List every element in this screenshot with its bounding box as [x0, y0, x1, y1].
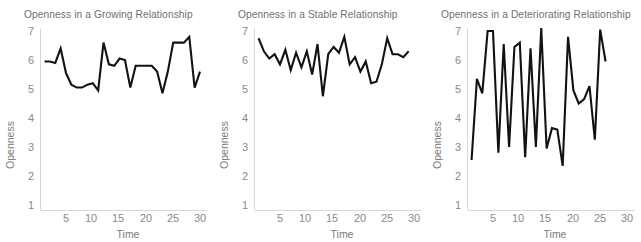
x-tick-label: 15 [112, 212, 124, 224]
x-tick-label: 10 [298, 212, 310, 224]
y-tick-label: 2 [28, 170, 34, 182]
y-axis-title-stable: Openness [219, 121, 230, 169]
x-axis-title-deteriorating: Time [544, 229, 567, 240]
x-tick-label: 30 [194, 212, 206, 224]
chart-title-growing: Openness in a Growing Relationship [24, 9, 193, 20]
y-tick-label: 1 [28, 199, 34, 211]
y-tick-label: 6 [28, 54, 34, 66]
y-tick-label: 4 [28, 112, 34, 124]
x-tick-label: 25 [594, 212, 606, 224]
y-tick-label: 3 [241, 141, 247, 153]
y-tick-label: 7 [241, 25, 247, 37]
x-tick-labels-stable: 5 10 15 20 25 30 [277, 212, 420, 224]
panel-growing-relationship: Openness in a Growing Relationship Openn… [0, 0, 214, 242]
chart-title-deteriorating: Openness in a Deteriorating Relationship [441, 9, 631, 20]
x-tick-label: 10 [85, 212, 97, 224]
x-tick-label: 15 [325, 212, 337, 224]
data-line-growing [45, 37, 200, 94]
y-axis-title-growing: Openness [5, 121, 16, 169]
x-tick-label: 20 [567, 212, 579, 224]
y-tick-labels-stable: 7 6 5 4 3 2 1 [241, 25, 247, 211]
chart-svg-stable: Openness in a Stable Relationship Openne… [214, 0, 428, 242]
y-tick-label: 6 [455, 54, 461, 66]
x-tick-label: 5 [277, 212, 283, 224]
y-tick-label: 4 [241, 112, 247, 124]
y-tick-label: 3 [28, 141, 34, 153]
x-tick-label: 5 [490, 212, 496, 224]
y-tick-labels-deteriorating: 7 6 5 4 3 2 1 [455, 25, 461, 211]
x-axis-title-stable: Time [330, 229, 353, 240]
y-tick-label: 7 [28, 25, 34, 37]
y-tick-label: 1 [241, 199, 247, 211]
y-tick-labels-growing: 7 6 5 4 3 2 1 [28, 25, 34, 211]
x-tick-label: 25 [380, 212, 392, 224]
data-line-deteriorating [472, 28, 606, 166]
x-tick-label: 30 [407, 212, 419, 224]
y-tick-label: 7 [455, 25, 461, 37]
x-axis-title-growing: Time [117, 229, 140, 240]
y-tick-label: 6 [241, 54, 247, 66]
x-tick-label: 20 [140, 212, 152, 224]
y-axis-title-deteriorating: Openness [432, 121, 443, 169]
y-tick-label: 5 [455, 83, 461, 95]
x-tick-label: 25 [167, 212, 179, 224]
three-panel-line-chart-figure: Openness in a Growing Relationship Openn… [0, 0, 641, 242]
y-tick-label: 5 [241, 83, 247, 95]
data-line-stable [258, 37, 408, 96]
x-tick-labels-deteriorating: 5 10 15 20 25 30 [490, 212, 633, 224]
x-tick-label: 15 [539, 212, 551, 224]
y-tick-label: 3 [455, 141, 461, 153]
y-tick-label: 2 [455, 170, 461, 182]
y-tick-label: 5 [28, 83, 34, 95]
y-tick-label: 2 [241, 170, 247, 182]
chart-svg-deteriorating: Openness in a Deteriorating Relationship… [427, 0, 641, 242]
chart-title-stable: Openness in a Stable Relationship [238, 9, 398, 20]
x-tick-label: 10 [512, 212, 524, 224]
y-tick-label: 1 [455, 199, 461, 211]
chart-svg-growing: Openness in a Growing Relationship Openn… [0, 0, 214, 242]
y-tick-label: 4 [455, 112, 461, 124]
x-tick-label: 20 [353, 212, 365, 224]
x-tick-labels-growing: 5 10 15 20 25 30 [63, 212, 206, 224]
panel-stable-relationship: Openness in a Stable Relationship Openne… [214, 0, 428, 242]
x-tick-label: 5 [63, 212, 69, 224]
x-tick-label: 30 [621, 212, 633, 224]
panel-deteriorating-relationship: Openness in a Deteriorating Relationship… [427, 0, 641, 242]
